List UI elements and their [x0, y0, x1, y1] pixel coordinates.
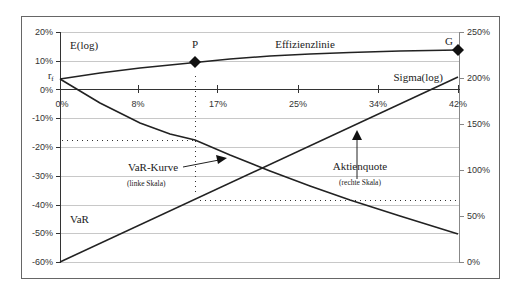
svg-text:34%: 34% — [369, 99, 387, 109]
svg-text:-10%: -10% — [32, 113, 53, 123]
svg-text:25%: 25% — [289, 99, 307, 109]
svg-text:150%: 150% — [467, 119, 490, 129]
e-log-label: E(log) — [70, 39, 98, 52]
chart: 20% 10% 0% -10% -20% -30% -40% -50% -60%… — [0, 0, 519, 294]
svg-text:0%: 0% — [55, 99, 68, 109]
g-label: G — [445, 35, 453, 47]
svg-text:-40%: -40% — [32, 200, 53, 210]
svg-text:42%: 42% — [449, 99, 467, 109]
svg-text:200%: 200% — [467, 73, 490, 83]
svg-text:50%: 50% — [467, 211, 485, 221]
svg-text:-30%: -30% — [32, 171, 53, 181]
left-tick-labels: 20% 10% 0% -10% -20% -30% -40% -50% -60% — [32, 27, 53, 267]
svg-text:-60%: -60% — [32, 257, 53, 267]
svg-text:8%: 8% — [131, 99, 144, 109]
var-kurve-sublabel: (linke Skala) — [127, 179, 166, 188]
svg-text:0%: 0% — [467, 257, 480, 267]
var-kurve-label: VaR-Kurve — [128, 161, 178, 173]
svg-text:20%: 20% — [35, 27, 53, 37]
effizienzlinie-label: Effizienzlinie — [275, 38, 335, 50]
aktienquote-sublabel: (rechte Skala) — [339, 178, 381, 187]
var-label: VaR — [70, 213, 90, 225]
svg-text:17%: 17% — [209, 99, 227, 109]
svg-text:0%: 0% — [40, 85, 53, 95]
svg-text:250%: 250% — [467, 27, 490, 37]
svg-text:100%: 100% — [467, 165, 490, 175]
sigma-log-label: Sigma(log) — [394, 71, 444, 84]
svg-text:10%: 10% — [35, 56, 53, 66]
svg-text:-50%: -50% — [32, 228, 53, 238]
aktienquote-label: Aktienquote — [333, 160, 387, 172]
p-label: P — [192, 38, 198, 50]
svg-text:-20%: -20% — [32, 142, 53, 152]
